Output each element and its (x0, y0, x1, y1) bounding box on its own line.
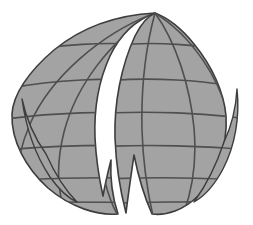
artboard: Stylized gray globe with latitude and lo… (0, 0, 253, 225)
latitude-line (40, 202, 160, 203)
globe-logo (0, 0, 253, 225)
latitude-line (116, 201, 222, 203)
